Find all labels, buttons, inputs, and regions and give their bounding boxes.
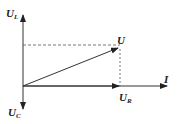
label-uc: UC (8, 106, 21, 120)
u-arrow (23, 48, 118, 86)
phasor-diagram: UL U I UR UC (0, 0, 179, 124)
label-i: I (163, 73, 169, 85)
label-u: U (117, 34, 126, 46)
label-ul: UL (6, 7, 18, 21)
label-ur: UR (119, 91, 132, 105)
